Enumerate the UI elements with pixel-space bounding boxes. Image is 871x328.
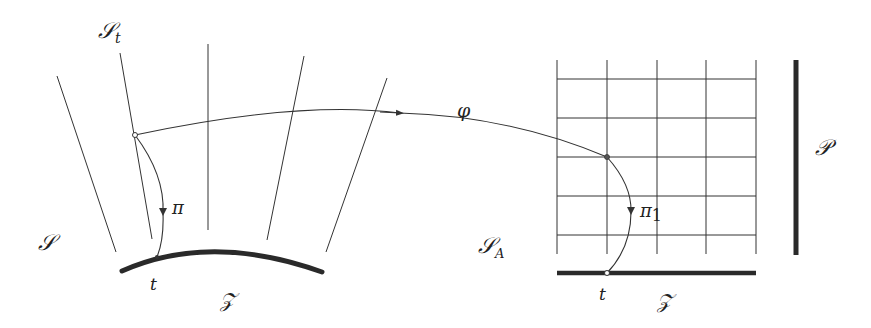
- label-s-t: 𝒮t: [98, 18, 121, 46]
- phi-map-curve-continued: [400, 113, 607, 157]
- base-curve-z-left: [122, 252, 322, 272]
- fiber-bundle-diagram: 𝒮t π 𝒮 t 𝒵 φ π1 𝒮A t 𝒵 𝒫: [0, 0, 871, 328]
- pi-projection-curve: [135, 135, 163, 213]
- label-z-right: 𝒵: [656, 289, 677, 313]
- fiber-line-4: [267, 56, 304, 240]
- fiber-line-5: [326, 78, 387, 252]
- label-z-left: 𝒵: [219, 288, 240, 312]
- fiber-line-2: [120, 53, 152, 239]
- fiber-point-right: [605, 155, 610, 160]
- pi-projection-curve-lower: [157, 213, 163, 257]
- base-point-right: [605, 271, 610, 276]
- phi-map-curve: [135, 109, 400, 135]
- label-pi: π: [171, 197, 185, 218]
- label-phi: φ: [457, 99, 471, 121]
- fiber-line-1: [57, 76, 116, 252]
- pi1-projection-curve: [607, 157, 631, 212]
- label-p: 𝒫: [815, 135, 837, 160]
- label-t-left: t: [150, 274, 157, 294]
- pi1-projection-curve-lower: [607, 212, 631, 273]
- fiber-point-left: [133, 133, 138, 138]
- base-point-left: [155, 255, 159, 259]
- label-s: 𝒮: [38, 230, 61, 255]
- label-t-right: t: [599, 284, 606, 304]
- left-fiber-lines: [57, 44, 387, 252]
- label-pi1: π1: [639, 200, 662, 225]
- label-s-a: 𝒮A: [478, 233, 504, 261]
